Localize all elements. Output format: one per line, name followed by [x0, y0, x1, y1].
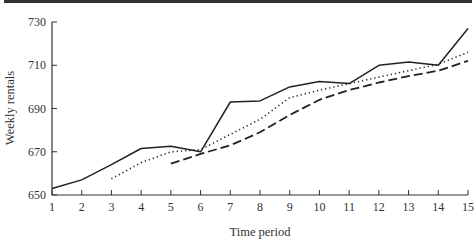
series-line-solid [52, 29, 468, 189]
y-tick-label: 690 [28, 102, 46, 116]
series-line-dotted [111, 52, 468, 179]
y-axis-title: Weekly rentals [3, 71, 17, 145]
series-lines [52, 29, 468, 189]
y-tick-label: 730 [28, 15, 46, 29]
x-tick-label: 9 [287, 200, 293, 214]
line-chart: 650670690710730123456789101112131415 Tim… [0, 0, 476, 241]
x-tick-label: 10 [313, 200, 325, 214]
x-tick-label: 5 [168, 200, 174, 214]
y-tick-label: 650 [28, 188, 46, 202]
x-tick-label: 2 [79, 200, 85, 214]
x-tick-label: 12 [373, 200, 385, 214]
x-tick-label: 15 [462, 200, 474, 214]
y-tick-label: 670 [28, 145, 46, 159]
x-tick-label: 7 [227, 200, 233, 214]
x-tick-label: 11 [343, 200, 355, 214]
y-tick-label: 710 [28, 58, 46, 72]
x-tick-label: 14 [432, 200, 444, 214]
x-tick-label: 4 [138, 200, 144, 214]
x-tick-label: 13 [403, 200, 415, 214]
x-axis-title: Time period [230, 225, 292, 239]
x-tick-label: 6 [198, 200, 204, 214]
series-line-dashed [171, 61, 468, 164]
x-tick-label: 3 [108, 200, 114, 214]
axes: 650670690710730123456789101112131415 [28, 15, 474, 214]
x-tick-label: 1 [49, 200, 55, 214]
x-tick-label: 8 [257, 200, 263, 214]
